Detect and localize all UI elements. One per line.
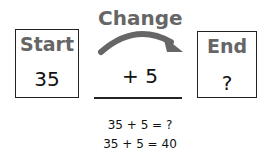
equation-question: 35 + 5 = ?	[95, 118, 185, 132]
end-box: End ?	[197, 31, 257, 98]
curved-arrow-icon	[95, 26, 187, 56]
start-box: Start 35	[15, 29, 79, 98]
end-value: ?	[198, 71, 256, 95]
start-label: Start	[16, 33, 78, 55]
end-label: End	[198, 35, 256, 57]
start-value: 35	[16, 67, 78, 91]
change-underline	[94, 97, 182, 99]
equation-answer: 35 + 5 = 40	[95, 137, 185, 151]
change-value: + 5	[95, 64, 185, 88]
